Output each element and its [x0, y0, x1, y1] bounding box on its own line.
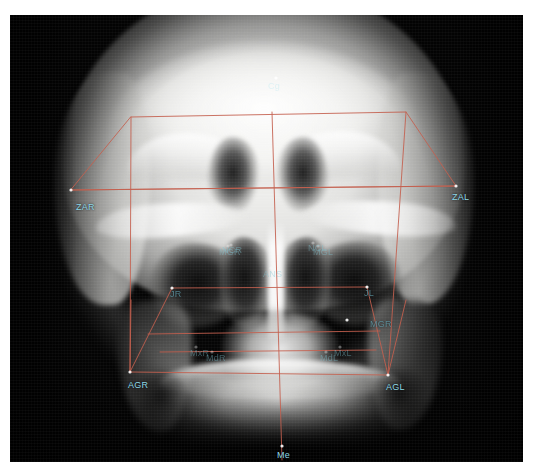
film-vignette [10, 15, 523, 462]
nasal-cavity-left [278, 237, 332, 329]
ethmoid-cells-left [278, 137, 328, 211]
frontal-bone [106, 41, 422, 191]
mandibular-body [150, 377, 412, 462]
gonial-shadow-right [128, 371, 190, 429]
alveolar-ridge [160, 359, 400, 399]
temporal-ridge-left [378, 73, 474, 305]
nasal-septum [268, 221, 284, 339]
nasal-cavity-right [218, 237, 272, 329]
ethmoid-cells-right [208, 137, 258, 211]
film-field-mask-right [458, 15, 523, 462]
film-grain [10, 15, 523, 462]
film-field-mask-bottom [10, 397, 523, 462]
orbital-roof-left [282, 131, 400, 177]
cranial-vault [62, 15, 466, 311]
mandibular-ramus-left [368, 299, 442, 431]
film-field-mask-left [10, 15, 76, 462]
zygomatic-arch-right [95, 198, 247, 242]
radiograph-film[interactable] [10, 15, 523, 462]
temporal-ridge-right [54, 73, 150, 305]
maxillary-sinus-right [150, 243, 246, 329]
zygomatic-arch-left [305, 196, 457, 240]
gonial-shadow-left [370, 369, 432, 427]
soft-tissue-outline [50, 15, 478, 429]
mandibular-ramus-right [118, 301, 192, 433]
midface-maxilla [222, 311, 338, 397]
cephalometric-screenshot: CgZARZALNCRNCLANSMGRMGLJRJLAGRAGLMxRMxLM… [0, 0, 533, 473]
orbital-roof-right [128, 133, 246, 179]
maxillary-sinus-left [306, 241, 402, 327]
